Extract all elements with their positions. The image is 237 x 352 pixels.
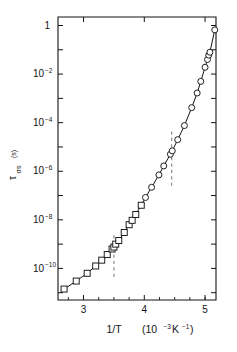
data-point-circle (181, 123, 187, 129)
y-tick-exponent: −2 (45, 67, 53, 74)
y-tick-label: 10 (33, 68, 45, 79)
y-tick-label: 10 (33, 117, 45, 128)
data-point-circle (207, 49, 213, 55)
figure-panel: 110−210−410−610−810−103451/T(10−3 K−1)τσ… (0, 0, 237, 352)
data-point-square (129, 217, 135, 223)
data-point-square (138, 202, 144, 208)
data-curve (64, 30, 215, 289)
y-axis-title-units: (s) (10, 150, 18, 158)
data-point-circle (169, 148, 175, 154)
plot-frame (58, 17, 216, 300)
data-point-square (116, 237, 122, 243)
data-point-circle (161, 163, 167, 169)
data-point-circle (143, 194, 149, 200)
x-tick-label: 5 (202, 304, 208, 315)
y-axis-title-subscript: σs (15, 165, 22, 173)
data-point-circle (198, 78, 204, 84)
data-point-circle (189, 105, 195, 111)
x-axis-units-exponent2: −1 (182, 323, 190, 330)
data-point-square (84, 270, 90, 276)
y-tick-exponent: −6 (45, 164, 53, 171)
data-point-square (104, 252, 110, 258)
x-tick-label: 4 (142, 304, 148, 315)
x-axis-units-exponent: −3 (164, 323, 172, 330)
data-point-square (93, 263, 99, 269)
data-point-circle (156, 172, 162, 178)
data-point-square (61, 286, 67, 292)
data-point-square (133, 211, 139, 217)
y-tick-label: 10 (33, 214, 45, 225)
x-axis-title-main: 1/T (106, 323, 122, 335)
data-point-circle (194, 90, 200, 96)
data-point-square (73, 278, 79, 284)
y-tick-label: 10 (33, 263, 45, 274)
data-point-square (121, 229, 127, 235)
data-point-circle (175, 137, 181, 143)
x-axis-units-close: ) (190, 323, 194, 335)
y-tick-exponent: −8 (45, 213, 53, 220)
y-tick-exponent: −4 (45, 116, 53, 123)
x-tick-label: 3 (81, 304, 87, 315)
y-tick-exponent: −10 (45, 261, 56, 268)
x-axis-units-suffix: K (172, 323, 179, 335)
y-tick-label: 10 (33, 165, 45, 176)
data-point-circle (149, 184, 155, 190)
y-tick-label: 1 (44, 20, 50, 31)
data-point-square (99, 257, 105, 263)
x-axis-units-prefix: (10 (142, 323, 157, 335)
data-point-circle (202, 64, 208, 70)
data-point-circle (212, 27, 218, 33)
arrhenius-semilog-plot: 110−210−410−610−810−103451/T(10−3 K−1)τσ… (0, 0, 237, 352)
y-axis-title-tau: τ (7, 176, 18, 180)
